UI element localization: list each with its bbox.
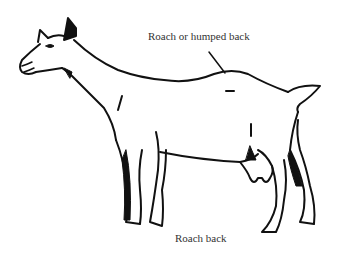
roach-back-caption: Roach back bbox=[175, 232, 227, 244]
roach-humped-back-label: Roach or humped back bbox=[148, 30, 250, 42]
goat-front-leg-shade bbox=[122, 150, 131, 220]
goat-eye bbox=[46, 45, 54, 48]
goat-udder-shade bbox=[246, 146, 256, 160]
goat-front-leg-front bbox=[150, 132, 166, 226]
goat-throat-shade bbox=[64, 68, 72, 78]
goat-neck-top bbox=[74, 40, 288, 92]
goat-neck-bottom bbox=[62, 68, 116, 140]
goat-mouth bbox=[22, 62, 34, 72]
goat-hind-leg-near bbox=[262, 160, 286, 232]
goat-head bbox=[20, 35, 64, 74]
goat-ear-back bbox=[38, 30, 48, 42]
goat-figure: Roach or humped back Roach back bbox=[0, 0, 344, 256]
goat-hind-leg-shade bbox=[288, 150, 302, 186]
goat-ear-front bbox=[64, 18, 76, 40]
goat-shoulder-mark bbox=[118, 96, 122, 110]
label-pointer-line bbox=[209, 52, 225, 73]
goat-belly bbox=[160, 152, 258, 162]
goat-tail bbox=[288, 86, 320, 112]
